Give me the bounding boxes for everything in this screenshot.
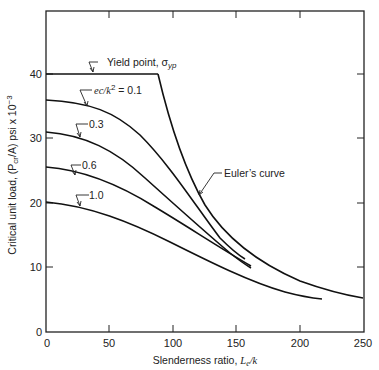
y-tick-40: 40 <box>30 68 42 80</box>
x-tick-labels: 0 50 100 150 200 250 <box>44 337 372 349</box>
y-tick-20: 20 <box>30 197 42 209</box>
label-1.0: 1.0 <box>89 189 104 201</box>
curve-1.0 <box>46 202 322 299</box>
plot-frame <box>46 11 364 332</box>
x-tick-150: 150 <box>227 337 245 349</box>
y-tick-labels: 0 10 20 30 40 <box>30 68 42 338</box>
leader-0.3 <box>76 124 88 137</box>
label-0.3: 0.3 <box>89 118 104 130</box>
leader-euler <box>199 173 222 195</box>
label-yield-point: Yield point, σyp <box>107 56 177 70</box>
x-tick-200: 200 <box>291 337 309 349</box>
y-tick-0: 0 <box>36 326 42 338</box>
y-tick-30: 30 <box>30 132 42 144</box>
x-tick-250: 250 <box>354 337 372 349</box>
leader-1.0 <box>76 195 89 206</box>
label-ec-0.1: ec/k2 = 0.1 <box>94 83 142 96</box>
y-axis-label: Critical unit load, (Pcr/A) psi x 10−3 <box>5 95 20 255</box>
x-tick-0: 0 <box>44 337 50 349</box>
label-0.6: 0.6 <box>82 159 97 171</box>
chart: 0 50 100 150 200 250 0 10 20 30 40 Slend… <box>0 0 379 370</box>
y-tick-10: 10 <box>30 261 42 273</box>
euler-curve <box>158 74 363 298</box>
x-axis-label: Slenderness ratio, Le/k <box>153 354 258 368</box>
label-euler: Euler’s curve <box>224 167 285 179</box>
x-tick-100: 100 <box>164 337 182 349</box>
x-tick-50: 50 <box>103 337 115 349</box>
